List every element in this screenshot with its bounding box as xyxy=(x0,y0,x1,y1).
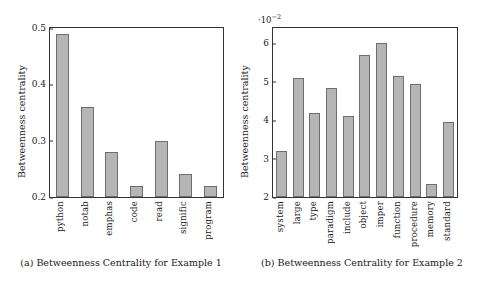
y-tick-label: 2 xyxy=(263,193,273,202)
bar-series-b xyxy=(273,28,457,197)
bar xyxy=(155,141,168,197)
y-tick-label: 5 xyxy=(263,77,273,86)
y-axis-label-a: Betweenness centrality xyxy=(17,48,27,178)
caption-a: (a) Betweenness Centrality for Example 1 xyxy=(0,258,242,268)
x-tick-label: large xyxy=(293,201,304,224)
x-tick-label: signific xyxy=(179,201,192,234)
bar xyxy=(359,55,370,197)
bar xyxy=(179,174,192,197)
x-tick-label: python xyxy=(56,201,69,232)
y-axis-multiplier-base: ·10 xyxy=(258,15,272,25)
x-tick-label: system xyxy=(276,201,287,232)
y-tick-label: 0.3 xyxy=(32,136,50,145)
x-tick-label: include xyxy=(343,201,354,234)
y-axis-multiplier-exponent: −2 xyxy=(272,13,282,21)
bar xyxy=(130,186,143,197)
bar xyxy=(293,78,304,197)
x-tick-label: standard xyxy=(443,201,454,241)
x-tick-label: type xyxy=(309,201,320,221)
x-axis-ticks-b: systemlargetypeparadigmincludeobjectimpe… xyxy=(273,197,457,247)
figure-two-panel-bar-charts: Betweenness centrality 0.20.30.40.5 pyth… xyxy=(0,0,483,290)
x-tick-label: memory xyxy=(426,201,437,237)
bar xyxy=(393,76,404,197)
panel-a: Betweenness centrality 0.20.30.40.5 pyth… xyxy=(0,0,242,290)
x-tick-label: function xyxy=(393,201,404,238)
bar xyxy=(56,34,69,197)
plot-area-a: 0.20.30.40.5 pythonnotabemphascodereadsi… xyxy=(49,27,224,198)
y-axis-label-b: Betweenness centrality xyxy=(240,48,250,178)
y-tick-label: 0.5 xyxy=(32,24,50,33)
y-tick-label: 0.2 xyxy=(32,193,50,202)
y-tick-label: 0.4 xyxy=(32,80,50,89)
x-tick-label: paradigm xyxy=(326,201,337,244)
x-tick-label: notab xyxy=(81,201,94,227)
x-axis-ticks-a: pythonnotabemphascodereadsignificprogram xyxy=(50,197,223,240)
bar xyxy=(276,151,287,197)
x-tick-label: object xyxy=(359,201,370,229)
bar xyxy=(326,88,337,197)
x-tick-label: imper xyxy=(376,201,387,227)
x-tick-label: procedure xyxy=(410,201,421,247)
x-tick-label: read xyxy=(155,201,168,221)
bar xyxy=(443,122,454,197)
bar xyxy=(204,186,217,197)
y-axis-multiplier-b: ·10−2 xyxy=(258,14,281,24)
bar xyxy=(309,113,320,198)
y-tick-label: 6 xyxy=(263,39,273,48)
bar xyxy=(410,84,421,197)
bar xyxy=(343,116,354,197)
bar xyxy=(376,43,387,197)
caption-b: (b) Betweenness Centrality for Example 2 xyxy=(241,258,483,268)
y-tick-label: 3 xyxy=(263,154,273,163)
x-tick-label: emphas xyxy=(105,201,118,236)
bar-series-a xyxy=(50,28,223,197)
panel-b: Betweenness centrality ·10−2 23456 syste… xyxy=(241,0,483,290)
plot-area-b: 23456 systemlargetypeparadigmincludeobje… xyxy=(272,27,458,198)
bar xyxy=(426,184,437,197)
bar xyxy=(105,152,118,197)
x-tick-label: code xyxy=(130,201,143,222)
y-tick-label: 4 xyxy=(263,116,273,125)
x-tick-label: program xyxy=(204,201,217,240)
bar xyxy=(81,107,94,197)
